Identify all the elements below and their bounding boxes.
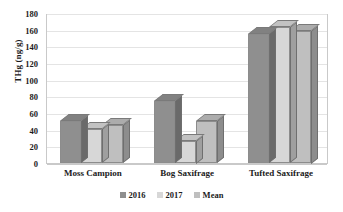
legend-swatch-icon xyxy=(157,192,163,198)
chart-legend: 20162017Mean xyxy=(0,190,343,200)
y-tick-label: 100 xyxy=(25,76,38,85)
bar-side-face xyxy=(217,116,224,163)
bar-chart: THg (ng/g) 180160140120100806040200 Moss… xyxy=(0,0,343,212)
bar-group xyxy=(248,14,311,163)
y-tick-label: 0 xyxy=(34,160,38,169)
bar-side-face xyxy=(290,22,297,163)
bar-side-face xyxy=(102,123,109,163)
y-tick-label: 20 xyxy=(30,143,39,152)
x-tick-label: Moss Campion xyxy=(64,168,122,178)
x-axis-tick-labels: Moss CampionBog SaxifrageTufted Saxifrag… xyxy=(46,168,328,184)
y-tick-label: 180 xyxy=(25,10,38,19)
y-tick-label: 120 xyxy=(25,60,38,69)
bar-side-face xyxy=(81,116,88,163)
y-tick-label: 60 xyxy=(30,110,39,119)
legend-swatch-icon xyxy=(120,192,126,198)
y-tick-label: 40 xyxy=(30,126,39,135)
bar-front-face xyxy=(154,101,175,163)
y-tick-label: 80 xyxy=(30,93,39,102)
gridline xyxy=(47,164,327,165)
legend-label: 2016 xyxy=(129,190,146,200)
legend-item-2017[interactable]: 2017 xyxy=(157,190,183,200)
bar-side-face xyxy=(175,96,182,163)
bar-group xyxy=(154,14,217,163)
x-tick-label: Tufted Saxifrage xyxy=(249,168,313,178)
legend-swatch-icon xyxy=(194,192,200,198)
y-axis-tick-labels: 180160140120100806040200 xyxy=(0,14,42,164)
y-tick-label: 140 xyxy=(25,43,38,52)
legend-label: Mean xyxy=(203,190,224,200)
bar-front-face xyxy=(60,121,81,163)
legend-item-mean[interactable]: Mean xyxy=(194,190,224,200)
legend-label: 2017 xyxy=(166,190,183,200)
bar-2016-moss-campion xyxy=(60,121,81,163)
legend-item-2016[interactable]: 2016 xyxy=(120,190,146,200)
bar-side-face xyxy=(269,28,276,163)
bar-side-face xyxy=(311,25,318,163)
y-tick-label: 160 xyxy=(25,26,38,35)
bar-group xyxy=(60,14,123,163)
bar-2016-bog-saxifrage xyxy=(154,101,175,163)
bar-front-face xyxy=(248,34,269,163)
bar-2016-tufted-saxifrage xyxy=(248,34,269,163)
x-tick-label: Bog Saxifrage xyxy=(160,168,214,178)
bar-side-face xyxy=(123,119,130,163)
bars-layer xyxy=(46,14,328,164)
